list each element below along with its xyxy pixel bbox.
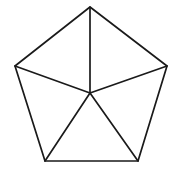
figure-background — [0, 0, 177, 172]
pentagon-figure — [0, 0, 177, 172]
